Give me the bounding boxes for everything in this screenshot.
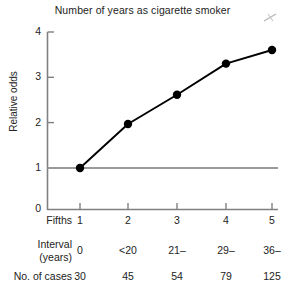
data-point <box>268 46 276 54</box>
data-point <box>76 164 84 172</box>
row-header-interval-units: (years) <box>0 251 72 263</box>
data-point <box>173 91 181 99</box>
table-row: No. of cases 30 45 54 79 125 <box>0 270 285 284</box>
table-cell: <20 <box>111 244 145 256</box>
table-cell: 36– <box>255 244 285 256</box>
table-cell: 21– <box>160 244 194 256</box>
y-tick-label-3: 3 <box>27 70 41 82</box>
data-point <box>222 59 230 67</box>
table-cell: 3 <box>160 214 194 226</box>
data-table: Fifths 1 2 3 4 5 Interval (years) 0 <20 … <box>0 212 285 286</box>
y-tick-label-1: 1 <box>27 161 41 173</box>
table-cell: 29– <box>209 244 243 256</box>
data-points <box>76 46 276 172</box>
table-cell: 5 <box>255 214 285 226</box>
chart-figure: Number of years as cigarette smoker <box>0 0 285 286</box>
table-cell: 2 <box>111 214 145 226</box>
plot-area <box>0 0 285 212</box>
data-point <box>124 120 132 128</box>
table-cell: 1 <box>63 214 97 226</box>
x-tick-marks <box>80 203 272 210</box>
y-tick-label-4: 4 <box>27 25 41 37</box>
row-header-no-of-cases: No. of cases <box>0 270 72 282</box>
table-cell: 4 <box>209 214 243 226</box>
table-cell: 45 <box>111 270 145 282</box>
table-cell: 30 <box>63 270 97 282</box>
table-row: Fifths 1 2 3 4 5 <box>0 214 285 228</box>
table-cell: 0 <box>63 244 97 256</box>
y-axis-label: Relative odds <box>8 62 19 142</box>
y-tick-label-2: 2 <box>27 116 41 128</box>
table-cell: 79 <box>209 270 243 282</box>
row-header-fifths: Fifths <box>0 214 72 226</box>
table-cell: 54 <box>160 270 194 282</box>
table-cell: 125 <box>255 270 285 282</box>
data-line <box>80 50 272 168</box>
table-row: Interval (years) 0 <20 21– 29– 36– <box>0 238 285 266</box>
y-tick-marks <box>48 32 55 168</box>
row-header-interval: Interval <box>0 238 72 250</box>
